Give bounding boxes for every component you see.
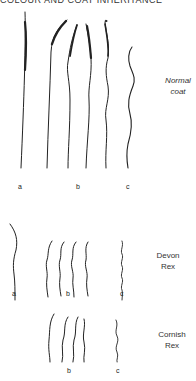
section-title-line2: Rex (148, 261, 188, 272)
normal-label-a: a (18, 183, 22, 190)
section-title-line2: Rex (150, 340, 194, 351)
section-title-line1: Devon (148, 250, 188, 261)
cornish-label-b: b (67, 367, 71, 374)
section-title-devon-rex: Devon Rex (148, 250, 188, 272)
section-title-normal-coat: Normal coat (160, 75, 196, 97)
hair-diagram (0, 0, 196, 381)
devon-label-b: b (66, 290, 70, 297)
section-title-cornish-rex: Cornish Rex (150, 329, 194, 351)
devon-hairs-b (46, 241, 88, 297)
section-title-line1: Normal (160, 75, 196, 86)
devon-hair-a (10, 224, 17, 300)
normal-label-b: b (76, 183, 80, 190)
devon-label-a: a (12, 290, 16, 297)
cornish-label-c: c (116, 367, 120, 374)
cornish-hairs-b (49, 314, 85, 362)
normal-hair-a (21, 12, 26, 168)
normal-hairs-b (47, 20, 109, 168)
section-title-line1: Cornish (150, 329, 194, 340)
cornish-hair-c (116, 320, 118, 362)
section-title-line2: coat (160, 86, 196, 97)
normal-hair-c (127, 47, 134, 168)
normal-label-c: c (126, 183, 130, 190)
devon-label-c: c (120, 290, 124, 297)
